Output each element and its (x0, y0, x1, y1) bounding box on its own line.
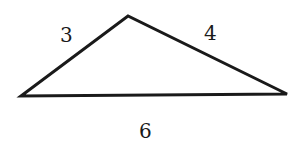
label-base: 6 (139, 119, 152, 143)
label-left-side: 3 (60, 23, 73, 47)
triangle-diagram: 3 4 6 (0, 0, 299, 145)
label-right-side: 4 (204, 21, 217, 45)
